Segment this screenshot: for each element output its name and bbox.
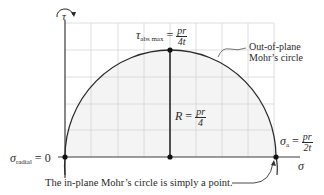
sigma-a-label: σa = pr2t — [280, 132, 313, 153]
top-point — [167, 47, 172, 52]
sigma-axis-label: σ — [298, 160, 304, 172]
tau-axis-label: τ — [62, 11, 66, 22]
out-of-plane-label: Out-of-plane Mohr’s circle — [249, 41, 303, 63]
circle-tail — [276, 157, 277, 175]
center-point — [167, 154, 172, 159]
in-plane-note: The in-plane Mohr’s circle is simply a p… — [45, 178, 233, 189]
radius-label: R = pr4 — [175, 107, 206, 128]
tau-abs-max-label: τabs max = pr4t — [136, 26, 187, 47]
sigma-a-point — [273, 154, 278, 159]
origin-point — [62, 154, 67, 159]
sigma-radial-label: σradial = 0 — [10, 152, 51, 166]
in-plane-leader — [232, 163, 273, 183]
